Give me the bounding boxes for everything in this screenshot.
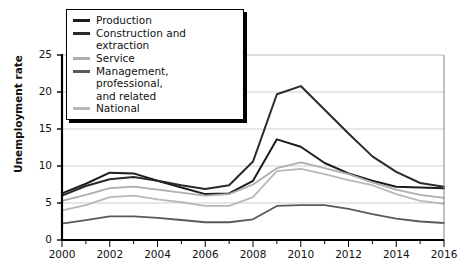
- chart-legend: ProductionConstruction and extractionSer…: [66, 9, 244, 120]
- legend-swatch-icon: [73, 57, 90, 60]
- legend-swatch-icon: [73, 70, 90, 73]
- legend-label-continuation: and related: [73, 90, 237, 102]
- legend-item: Service: [73, 52, 237, 64]
- legend-label: Production: [96, 14, 152, 26]
- legend-item: Construction and extraction: [73, 27, 237, 51]
- legend-item: Management, professional,: [73, 65, 237, 89]
- legend-item: National: [73, 102, 237, 114]
- legend-label: Management, professional,: [96, 65, 237, 89]
- unemployment-rate-line-chart: Unemployment rate 0510152025 20002002200…: [0, 0, 474, 271]
- series-line-national: [62, 169, 444, 210]
- legend-swatch-icon: [73, 32, 90, 35]
- legend-label: National: [96, 102, 140, 114]
- legend-swatch-icon: [73, 107, 90, 110]
- legend-label: Service: [96, 52, 135, 64]
- legend-item: Production: [73, 14, 237, 26]
- legend-swatch-icon: [73, 19, 90, 22]
- legend-label: Construction and extraction: [96, 27, 237, 51]
- series-line-management-professional-and-related: [62, 205, 444, 224]
